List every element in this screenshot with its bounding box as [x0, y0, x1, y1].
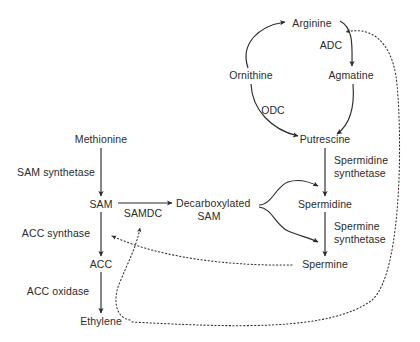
enzyme-spermine-synthetase: Spermine synthetase [334, 220, 396, 245]
node-decarboxylated-sam: Decarboxylated SAM [176, 197, 242, 222]
enzyme-odc: ODC [255, 104, 291, 116]
enzyme-adc: ADC [313, 39, 349, 51]
feedback-spermine-to-acc-synthase [112, 236, 292, 265]
enzyme-acc-oxidase: ACC oxidase [22, 285, 94, 297]
node-agmatine: Agmatine [320, 69, 382, 81]
arrow-agmatine-to-putrescine [337, 84, 353, 134]
node-ornithine: Ornithine [219, 69, 283, 81]
enzyme-acc-synthase: ACC synthase [17, 227, 95, 239]
pathway-diagram: Methionine SAM Decarboxylated SAM ACC Et… [0, 0, 420, 342]
node-spermine: Spermine [294, 258, 356, 270]
node-arginine: Arginine [282, 17, 342, 29]
enzyme-spermidine-synthetase: Spermidine synthetase [334, 154, 396, 179]
arrow-ornithine-to-arginine [246, 22, 285, 68]
feedback-ethylene-to-samdc [116, 228, 140, 320]
enzyme-samdc: SAMDC [116, 207, 170, 219]
node-putrescine: Putrescine [293, 133, 357, 145]
node-acc: ACC [71, 258, 131, 270]
node-ethylene: Ethylene [66, 315, 136, 327]
enzyme-sam-synthetase: SAM synthetase [13, 166, 99, 178]
node-spermidine: Spermidine [292, 198, 358, 210]
arrow-decarboxylated-sam-to-spermine [259, 207, 318, 242]
node-methionine: Methionine [61, 133, 141, 145]
